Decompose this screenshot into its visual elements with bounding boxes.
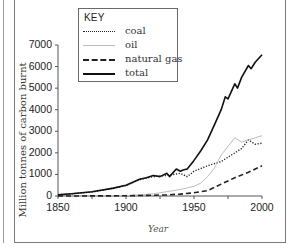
series-line-coal <box>58 140 262 195</box>
legend-label: oil <box>125 39 137 50</box>
x-tick-label: 2000 <box>242 201 282 213</box>
y-axis-label: Million tonnes of carbon burnt <box>17 62 28 217</box>
x-tick-label: 1900 <box>106 201 146 213</box>
legend-label: coal <box>125 25 146 36</box>
x-axis-label: Year <box>148 224 168 234</box>
legend-item-total: total <box>83 67 177 80</box>
series-line-oil <box>58 136 262 196</box>
y-tick-label: 7000 <box>12 38 52 50</box>
thin-line-icon <box>83 45 115 46</box>
legend-item-coal: coal <box>83 25 177 38</box>
dashed-line-icon <box>83 59 115 61</box>
dotted-line-icon <box>83 31 115 32</box>
solid-line-icon <box>83 73 115 75</box>
legend-title: KEY <box>84 12 105 23</box>
legend-item-oil: oil <box>83 39 177 52</box>
legend-item-natural-gas: natural gas <box>83 53 177 66</box>
x-tick-label: 1850 <box>38 201 78 213</box>
chart-legend: KEY coal oil natural gas total <box>78 8 178 82</box>
legend-label: natural gas <box>125 53 182 64</box>
x-tick-label: 1950 <box>174 201 214 213</box>
legend-label: total <box>125 67 148 78</box>
